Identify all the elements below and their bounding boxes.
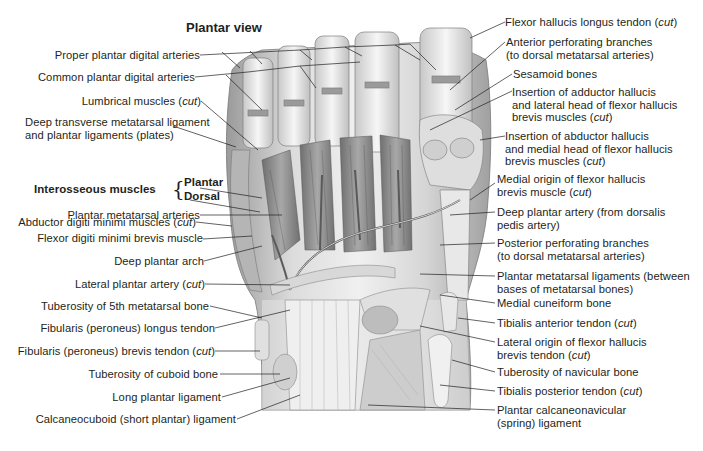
label-interosseous-dorsal: Dorsal xyxy=(184,190,220,203)
label-posterior-perforating-branches: Posterior perforating branches (to dorsa… xyxy=(497,237,649,262)
label-medial-cuneiform: Medial cuneiform bone xyxy=(497,297,611,310)
label-lateral-plantar-artery: Lateral plantar artery (cut) xyxy=(75,278,205,291)
label-proper-plantar-digital-arteries: Proper plantar digital arteries xyxy=(55,49,200,62)
label-interosseous-plantar: Plantar xyxy=(184,176,223,189)
label-deep-plantar-arch: Deep plantar arch xyxy=(114,255,204,268)
label-tuberosity-cuboid: Tuberosity of cuboid bone xyxy=(88,368,218,381)
label-tibialis-posterior: Tibialis posterior tendon (cut) xyxy=(497,385,642,398)
label-flexor-digiti-minimi-brevis: Flexor digiti minimi brevis muscle xyxy=(37,232,203,245)
label-medial-origin-fhb: Medial origin of flexor hallucis brevis … xyxy=(497,173,645,198)
label-spring-ligament: Plantar calcaneonavicular (spring) ligam… xyxy=(497,404,626,429)
label-lateral-origin-fhb: Lateral origin of flexor hallucis brevis… xyxy=(497,336,647,361)
label-common-plantar-digital-arteries: Common plantar digital arteries xyxy=(38,71,195,84)
label-plantar-metatarsal-arteries: Plantar metatarsal arteries xyxy=(67,209,200,222)
label-interosseous-muscles: Interosseous muscles xyxy=(34,183,156,196)
label-long-plantar-ligament: Long plantar ligament xyxy=(112,391,221,404)
label-deep-plantar-artery: Deep plantar artery (from dorsalis pedis… xyxy=(497,206,665,231)
label-fibularis-brevis: Fibularis (peroneus) brevis tendon (cut) xyxy=(18,345,215,358)
label-tibialis-anterior: Tibialis anterior tendon (cut) xyxy=(497,317,637,330)
figure-title: Plantar view xyxy=(186,20,262,35)
anatomy-figure: Plantar view Proper plantar digital arte… xyxy=(0,0,703,451)
label-tuberosity-navicular: Tuberosity of navicular bone xyxy=(497,366,639,379)
label-anterior-perforating-branches: Anterior perforating branches (to dorsal… xyxy=(506,36,654,61)
label-deep-transverse-metatarsal-ligament: Deep transverse metatarsal ligament and … xyxy=(25,116,210,141)
brace-icon: { xyxy=(172,179,185,199)
label-lumbrical-muscles: Lumbrical muscles (cut) xyxy=(82,95,201,108)
label-flexor-hallucis-longus: Flexor hallucis longus tendon (cut) xyxy=(505,16,677,29)
label-fibularis-longus: Fibularis (peroneus) longus tendon xyxy=(40,322,215,335)
label-insertion-adductor-hallucis: Insertion of adductor hallucis and later… xyxy=(512,86,677,124)
label-calcaneocuboid-ligament: Calcaneocuboid (short plantar) ligament xyxy=(36,413,236,426)
label-insertion-abductor-hallucis: Insertion of abductor hallucis and media… xyxy=(505,130,673,168)
label-sesamoid-bones: Sesamoid bones xyxy=(513,68,597,81)
label-tuberosity-5th-metatarsal: Tuberosity of 5th metatarsal bone xyxy=(41,300,209,313)
label-plantar-metatarsal-ligaments: Plantar metatarsal ligaments (between ba… xyxy=(497,270,690,295)
